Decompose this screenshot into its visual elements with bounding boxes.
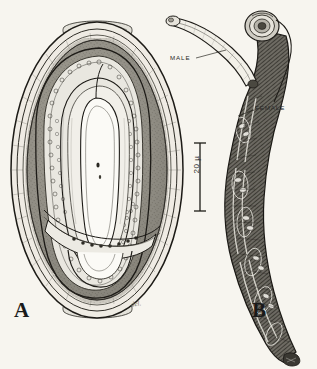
artist-signature: del. <box>130 299 141 308</box>
nematode-figure <box>0 0 317 369</box>
female-label: FEMALE <box>255 104 285 111</box>
scale-bar-label: 20 µ <box>192 150 201 180</box>
panel-a-egg <box>11 21 183 318</box>
female-tail-tip <box>283 353 300 366</box>
male-attachment-point <box>248 80 258 88</box>
male-anterior-tip <box>166 16 180 26</box>
panel-b-letter: B <box>252 300 266 321</box>
male-label: MALE <box>170 54 190 61</box>
larva-anterior-body <box>81 98 120 253</box>
female-head-coil <box>245 11 279 41</box>
panel-a-letter: A <box>14 300 29 321</box>
